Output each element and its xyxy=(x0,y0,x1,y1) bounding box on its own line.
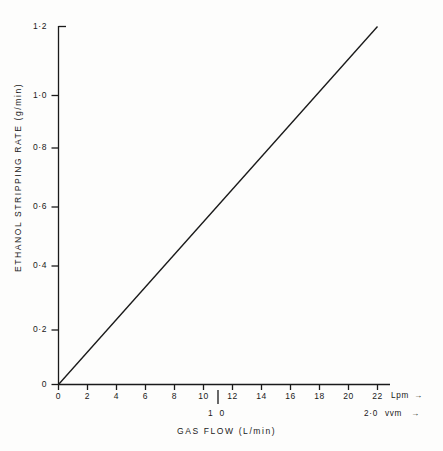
x-tick-label-0: 0 xyxy=(48,392,69,401)
y-axis-title: ETHANOL STRIPPING RATE (g/min) xyxy=(14,83,23,272)
x-axis-unit-secondary-arrow-icon: → xyxy=(411,410,420,418)
data-series-line xyxy=(59,27,378,385)
y-tick-label-0-2: 0·2 xyxy=(22,325,47,334)
x-axis-unit-primary-label: Lpm xyxy=(391,392,409,400)
x-tick-label-4: 4 xyxy=(106,392,127,401)
x-tick-label-10: 10 xyxy=(193,392,214,401)
x-tick-label-22: 22 xyxy=(367,392,388,401)
x-tick-label-12: 12 xyxy=(222,392,243,401)
y-axis-ticks xyxy=(52,96,59,385)
vvm-reference-marker-label: 1 0 xyxy=(208,409,226,418)
y-tick-label-1-2: 1·2 xyxy=(22,22,47,31)
x-axis-ticks xyxy=(59,385,378,391)
y-tick-label-0-6: 0·6 xyxy=(22,202,47,211)
y-tick-label-0-8: 0·8 xyxy=(22,143,47,152)
y-tick-label-1-0: 1·0 xyxy=(22,91,47,100)
chart-plot-area xyxy=(0,0,443,451)
x-tick-label-16: 16 xyxy=(280,392,301,401)
y-tick-label-0: 0 xyxy=(22,380,47,389)
x-tick-label-18: 18 xyxy=(309,392,330,401)
x-tick-label-2: 2 xyxy=(77,392,98,401)
x-tick-label-14: 14 xyxy=(251,392,272,401)
x-axis-title: GAS FLOW (L/min) xyxy=(177,427,276,436)
x-tick-label-6: 6 xyxy=(135,392,156,401)
y-tick-label-0-4: 0·4 xyxy=(22,261,47,270)
x-tick-label-8: 8 xyxy=(164,392,185,401)
x-axis-unit-secondary-label: vvm xyxy=(385,410,402,418)
x-axis-unit-primary-arrow-icon: → xyxy=(414,392,423,400)
x-axis-unit-secondary-value: 2·0 xyxy=(364,410,378,418)
x-tick-label-20: 20 xyxy=(338,392,359,401)
figure-container: 1·2 1·0 0·8 0·6 0·4 0·2 0 0 2 4 6 8 10 1… xyxy=(0,0,443,451)
